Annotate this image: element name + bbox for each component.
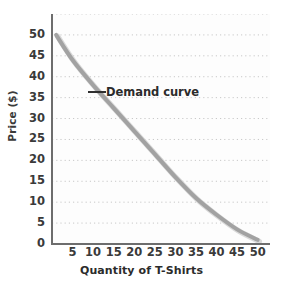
y-axis-tick-label: 15 — [1, 175, 45, 187]
y-axis-tick-label: 20 — [1, 154, 45, 166]
x-axis-title: Quantity of T-Shirts — [0, 264, 283, 277]
gridlines — [52, 14, 270, 223]
y-axis-tick-label: 45 — [1, 50, 45, 62]
annotation-label: Demand curve — [106, 85, 199, 99]
y-axis-tick-label: 5 — [1, 217, 45, 229]
y-axis-tick-label: 30 — [1, 113, 45, 125]
y-axis-tick-label: 35 — [1, 92, 45, 104]
x-axis-tick-labels: 5101520253035404550 — [0, 247, 283, 263]
demand-curve-chart: Price ($) 05101520253035404550 Demand cu… — [0, 0, 283, 293]
y-axis-line — [51, 14, 53, 245]
y-axis-tick-label: 25 — [1, 133, 45, 145]
plot-svg — [52, 14, 270, 244]
y-axis-tick-label: 10 — [1, 196, 45, 208]
y-axis-tick-label: 50 — [1, 29, 45, 41]
x-axis-tick-label: 50 — [245, 247, 271, 259]
demand-curve-series — [56, 35, 259, 242]
demand-curve-annotation: Demand curve — [88, 84, 199, 100]
y-axis-tick-label: 40 — [1, 71, 45, 83]
plot-area — [52, 14, 270, 244]
annotation-leader-line — [88, 91, 106, 93]
demand-curve-line — [56, 35, 258, 240]
